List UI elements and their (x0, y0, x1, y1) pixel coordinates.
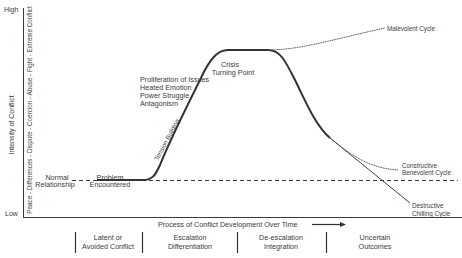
phase-uncertain-line1: Uncertain (360, 233, 391, 242)
label-tension-building: Tension Building (153, 117, 182, 162)
label-constructive-2: Benevolent Cycle (402, 169, 452, 177)
label-destructive-2: Chilling Cycle (412, 210, 451, 218)
phase-deescalation-line1: De-escalation (259, 233, 303, 242)
y-axis-low-label: Low (5, 210, 19, 217)
label-normal-2: Relationship (35, 180, 75, 189)
label-destructive-1: Destructive (412, 202, 444, 209)
label-constructive-1: Constructive (402, 162, 437, 169)
phase-latent-line1: Latent or (94, 233, 123, 242)
conflict-cycle-diagram: High Low Intensity of Conflict Peace - D… (0, 0, 462, 258)
label-problem-2: Encountered (90, 180, 131, 189)
y-axis-title: Intensity of Conflict (8, 95, 16, 154)
phase-escalation-line2: Differentiation (168, 242, 212, 251)
malevolent-branch (268, 28, 385, 50)
phase-latent-line2: Avoided Conflict (82, 242, 134, 251)
arrow-head-icon (340, 222, 346, 227)
y-axis-high-label: High (4, 6, 19, 14)
phase-deescalation-line2: Integration (264, 242, 298, 251)
phase-uncertain-line2: Outcomes (359, 242, 392, 251)
destructive-branch (330, 138, 410, 203)
label-malevolent-cycle: Malevolent Cycle (387, 25, 435, 33)
label-crisis-2: Turning Point (212, 68, 254, 77)
x-axis-title: Process of Conflict Development Over Tim… (158, 220, 297, 229)
phase-escalation-line1: Escalation (173, 233, 206, 242)
label-issues-4: Antagonism (140, 99, 178, 108)
y-axis-scale: Peace - Differences - Dispute - Coercion… (26, 6, 34, 214)
